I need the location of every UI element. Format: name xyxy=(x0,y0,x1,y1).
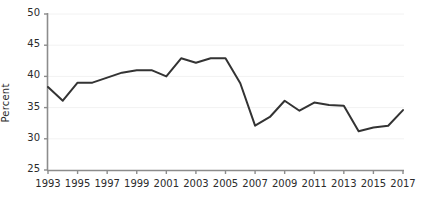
y-tick-label: 25 xyxy=(18,163,40,174)
y-tick-label: 50 xyxy=(18,7,40,18)
x-tick-label: 2017 xyxy=(386,178,420,189)
y-tick-label: 30 xyxy=(18,132,40,143)
gridlines xyxy=(48,14,404,139)
y-tick-label: 35 xyxy=(18,101,40,112)
data-series-line xyxy=(48,58,403,131)
y-tick-label: 40 xyxy=(18,69,40,80)
line-chart: Percent 253035404550 1993199519971999200… xyxy=(0,0,421,212)
y-tick-label: 45 xyxy=(18,38,40,49)
